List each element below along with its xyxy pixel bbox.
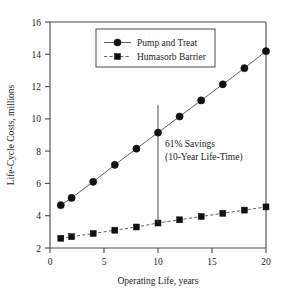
data-point-marker bbox=[219, 81, 226, 88]
data-point-marker bbox=[154, 129, 161, 136]
legend-marker-square-icon bbox=[115, 54, 121, 60]
chart-canvas: 2 4 6 8 10 12 14 16 0 5 10 15 bbox=[0, 0, 293, 304]
y-tick-label: 12 bbox=[32, 82, 42, 92]
legend-label: Pump and Treat bbox=[137, 38, 198, 48]
data-point-marker bbox=[220, 210, 226, 216]
y-tick-label: 16 bbox=[32, 18, 42, 28]
x-axis-title: Operating Life, years bbox=[118, 276, 199, 286]
data-point-marker bbox=[90, 231, 96, 237]
chart-legend: Pump and Treat Humasorb Barrier bbox=[96, 29, 215, 67]
y-axis-title: Life-Cycle Costs, millions bbox=[6, 84, 16, 185]
legend-label: Humasorb Barrier bbox=[137, 52, 207, 62]
y-axis-ticks: 2 4 6 8 10 12 14 16 bbox=[32, 18, 51, 254]
x-tick-label: 0 bbox=[48, 257, 53, 267]
data-point-marker bbox=[133, 145, 140, 152]
series-humasorb-barrier bbox=[58, 204, 269, 241]
data-point-marker bbox=[241, 207, 247, 213]
y-tick-label: 2 bbox=[36, 244, 41, 254]
y-tick-label: 4 bbox=[36, 211, 41, 221]
y-tick-label: 8 bbox=[36, 147, 41, 157]
chart-figure: 2 4 6 8 10 12 14 16 0 5 10 15 bbox=[0, 0, 293, 304]
data-point-marker bbox=[262, 48, 269, 55]
y-tick-label: 14 bbox=[32, 50, 42, 60]
data-point-marker bbox=[177, 217, 183, 223]
data-point-marker bbox=[69, 234, 75, 240]
x-tick-label: 5 bbox=[102, 257, 107, 267]
data-point-marker bbox=[198, 97, 205, 104]
series-pump-and-treat bbox=[57, 48, 269, 209]
x-tick-label: 20 bbox=[261, 257, 271, 267]
y-tick-label: 6 bbox=[36, 179, 41, 189]
annotation-line-2: (10-Year Life-Time) bbox=[165, 152, 243, 163]
data-point-marker bbox=[263, 204, 269, 210]
data-point-marker bbox=[58, 235, 64, 241]
data-point-marker bbox=[133, 224, 139, 230]
data-point-marker bbox=[241, 65, 248, 72]
y-tick-label: 10 bbox=[32, 114, 42, 124]
x-tick-label: 10 bbox=[153, 257, 163, 267]
data-point-marker bbox=[176, 113, 183, 120]
data-point-marker bbox=[112, 227, 118, 233]
legend-marker-circle-icon bbox=[114, 39, 121, 46]
data-point-marker bbox=[57, 202, 64, 209]
data-point-marker bbox=[111, 161, 118, 168]
annotation-line-1: 61% Savings bbox=[165, 139, 215, 149]
data-point-marker bbox=[90, 178, 97, 185]
x-tick-label: 15 bbox=[207, 257, 217, 267]
data-point-marker bbox=[68, 194, 75, 201]
data-point-marker bbox=[198, 214, 204, 220]
x-axis-ticks: 0 5 10 15 20 bbox=[48, 248, 271, 267]
